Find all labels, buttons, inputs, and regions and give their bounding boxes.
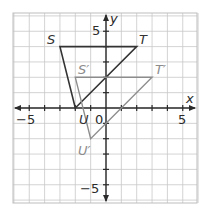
tick-label-y-pos5: 5 xyxy=(92,23,100,38)
origin-label: 0 xyxy=(95,112,103,127)
x-axis-label: x xyxy=(185,91,194,106)
tick-label-x-neg5: −5 xyxy=(16,112,35,127)
vertex-label-T-prime: T′ xyxy=(155,62,166,77)
coordinate-plane: x y 0 −5 5 5 −5 S T U S′ T′ U′ xyxy=(0,0,208,216)
vertex-label-U-prime: U′ xyxy=(78,143,91,158)
vertex-label-S-prime: S′ xyxy=(78,62,89,77)
vertex-label-T: T xyxy=(139,32,148,47)
vertex-label-S: S xyxy=(47,32,55,47)
axes xyxy=(14,14,196,202)
tick-label-y-neg5: −5 xyxy=(80,181,99,196)
y-axis-label: y xyxy=(109,11,118,26)
vertex-label-U: U xyxy=(79,112,89,127)
tick-label-x-pos5: 5 xyxy=(178,112,186,127)
